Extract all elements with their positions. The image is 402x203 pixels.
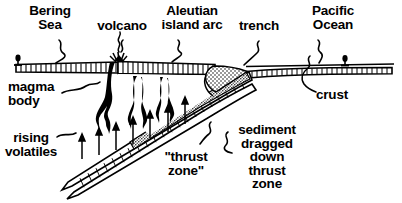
- leader-pacific-ocean: [318, 40, 322, 63]
- label-crust: crust: [316, 88, 366, 102]
- label-sediment-dragged-down: sediment dragged down thrust zone: [231, 123, 303, 191]
- leader-volcano: [121, 40, 123, 52]
- leader-thrust-zone: [200, 122, 211, 144]
- label-aleutian-island-arc: Aleutian island arc: [144, 4, 240, 31]
- leader-island-arc: [172, 40, 181, 62]
- crust-band-left: [16, 62, 118, 73]
- crust-band-arc: [118, 62, 215, 75]
- label-magma-body: magma body: [8, 80, 74, 107]
- label-thrust-zone: "thrust zone": [152, 150, 220, 177]
- leader-bering-sea: [56, 40, 65, 63]
- label-rising-volatiles: rising volatiles: [2, 131, 60, 158]
- label-pacific-ocean: Pacific Ocean: [300, 4, 366, 31]
- geologic-cross-section-figure: Bering Sea volcano Aleutian island arc t…: [0, 0, 402, 203]
- sea-level-marker-right-icon: [341, 55, 349, 65]
- leader-trench: [244, 41, 259, 65]
- volcano-symbol: [110, 32, 127, 62]
- sea-surface-line: [246, 64, 394, 67]
- crust-band-oceanic: [246, 68, 392, 78]
- label-bering-sea: Bering Sea: [14, 4, 86, 31]
- sea-level-marker-left-icon: [14, 55, 22, 65]
- label-trench: trench: [229, 19, 289, 33]
